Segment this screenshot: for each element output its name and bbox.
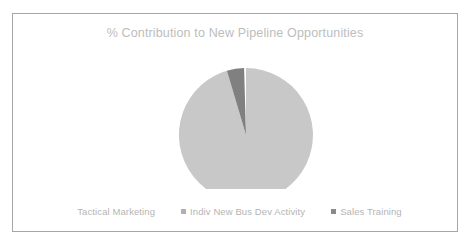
pie-slice-tactical-marketing[interactable] bbox=[179, 68, 313, 189]
legend-item-indiv-new-bus-dev-activity[interactable]: Indiv New Bus Dev Activity bbox=[181, 206, 305, 217]
pie-slices bbox=[179, 68, 313, 189]
pie-chart bbox=[155, 44, 337, 189]
legend-item-label: Tactical Marketing bbox=[77, 206, 155, 217]
chart-frame: % Contribution to New Pipeline Opportuni… bbox=[12, 13, 458, 232]
legend-item-label: Sales Training bbox=[340, 206, 402, 217]
legend-item-tactical-marketing[interactable]: Tactical Marketing bbox=[68, 206, 155, 217]
legend-item-label: Indiv New Bus Dev Activity bbox=[190, 206, 305, 217]
legend-swatch-icon bbox=[68, 209, 73, 214]
legend-swatch-icon bbox=[331, 209, 336, 214]
pie-chart-area bbox=[13, 14, 457, 231]
legend-item-sales-training[interactable]: Sales Training bbox=[331, 206, 402, 217]
legend-swatch-icon bbox=[181, 209, 186, 214]
chart-legend: Tactical Marketing Indiv New Bus Dev Act… bbox=[13, 206, 457, 217]
